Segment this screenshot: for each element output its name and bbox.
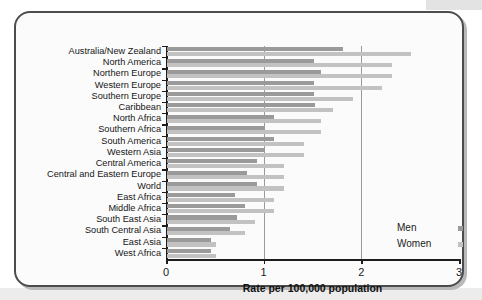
bar-women (167, 254, 216, 258)
bar-row: World (166, 181, 459, 192)
category-label: Northern Europe (93, 69, 161, 78)
bar-women (167, 242, 216, 246)
category-tick (162, 147, 166, 148)
category-label: South America (101, 137, 161, 146)
category-label: Western Asia (107, 148, 161, 157)
category-label: Southern Europe (92, 92, 161, 101)
category-tick (162, 158, 166, 159)
category-tick (162, 57, 166, 58)
category-tick (162, 248, 166, 249)
category-label: Central and Eastern Europe (47, 170, 161, 179)
bar-women (167, 119, 321, 123)
category-label: East Africa (117, 193, 161, 202)
x-tick-label-0: 0 (163, 266, 169, 278)
category-label: North Africa (113, 114, 161, 123)
bar-men (167, 81, 314, 85)
category-label: World (137, 182, 161, 191)
bar-row: Central America (166, 158, 459, 169)
category-tick (162, 124, 166, 125)
bar-row: Australia/New Zealand (166, 46, 459, 57)
category-label: Southern Africa (98, 125, 161, 134)
bar-row: Southern Africa (166, 124, 459, 135)
category-tick (162, 80, 166, 81)
bar-women (167, 97, 353, 101)
bar-men (167, 171, 247, 175)
bar-women (167, 108, 333, 112)
category-tick (162, 46, 166, 47)
x-tick-label-2: 2 (358, 266, 364, 278)
bar-men (167, 238, 211, 242)
bar-women (167, 231, 245, 235)
legend-item: Men (397, 221, 477, 237)
bar-women (167, 164, 284, 168)
bar-row: South America (166, 136, 459, 147)
bar-row: Western Asia (166, 147, 459, 158)
bar-men (167, 215, 237, 219)
bar-women (167, 186, 284, 190)
bar-men (167, 103, 315, 107)
bar-women (167, 142, 304, 146)
chart-screenshot: 0123 Australia/New ZealandNorth AmericaN… (0, 0, 482, 300)
x-tick-label-1: 1 (261, 266, 267, 278)
x-tick-0 (166, 259, 168, 264)
bar-women (167, 52, 411, 56)
category-tick (162, 113, 166, 114)
category-label: South East Asia (96, 215, 161, 224)
category-label: South Central Asia (85, 226, 161, 235)
chart-legend: MenWomen (397, 221, 477, 253)
category-label: East Asia (123, 238, 161, 247)
category-tick (162, 169, 166, 170)
bar-row: Northern Europe (166, 68, 459, 79)
category-tick (162, 68, 166, 69)
x-axis-line (166, 259, 459, 261)
category-label: Middle Africa (108, 204, 161, 213)
bar-women (167, 130, 321, 134)
chart-card: 0123 Australia/New ZealandNorth AmericaN… (14, 11, 464, 287)
bar-row: Middle Africa (166, 203, 459, 214)
bar-men (167, 137, 274, 141)
bar-row: East Africa (166, 192, 459, 203)
bar-men (167, 70, 321, 74)
legend-swatch (458, 242, 463, 247)
bar-women (167, 153, 304, 157)
bar-women (167, 86, 382, 90)
x-tick-3 (459, 259, 461, 264)
bar-women (167, 74, 392, 78)
legend-label: Women (397, 238, 431, 249)
legend-label: Men (397, 222, 416, 233)
bar-row: North America (166, 57, 459, 68)
bar-women (167, 63, 392, 67)
bar-men (167, 182, 257, 186)
bar-men (167, 92, 314, 96)
category-label: Caribbean (119, 103, 161, 112)
page-edge-right (426, 0, 482, 10)
bar-men (167, 193, 235, 197)
category-tick (162, 192, 166, 193)
category-tick (162, 136, 166, 137)
category-tick (162, 214, 166, 215)
legend-item: Women (397, 237, 477, 253)
bar-men (167, 126, 265, 130)
bar-men (167, 204, 245, 208)
bar-row: Caribbean (166, 102, 459, 113)
category-label: Western Europe (95, 81, 161, 90)
bar-row: Western Europe (166, 80, 459, 91)
category-label: Australia/New Zealand (69, 47, 161, 56)
category-tick (162, 181, 166, 182)
category-label: West Africa (115, 249, 161, 258)
bar-row: Southern Europe (166, 91, 459, 102)
category-label: Central America (96, 159, 161, 168)
x-axis-title: Rate per 100,000 population (166, 282, 459, 294)
category-tick (162, 237, 166, 238)
category-label: North America (103, 58, 161, 67)
bar-men (167, 59, 314, 63)
bar-women (167, 198, 274, 202)
bar-women (167, 220, 255, 224)
bar-row: Central and Eastern Europe (166, 169, 459, 180)
bar-men (167, 148, 265, 152)
category-tick (162, 225, 166, 226)
bar-men (167, 227, 230, 231)
bar-men (167, 47, 343, 51)
x-tick-label-3: 3 (456, 266, 462, 278)
bar-men (167, 115, 274, 119)
